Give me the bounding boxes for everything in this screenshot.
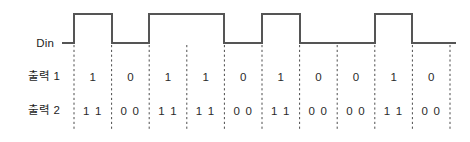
output1-bit-3: 1 [187,71,225,84]
output2-bit-4: 0 0 [224,105,262,118]
output1-bit-9: 0 [412,71,450,84]
timing-diagram-figure: Din 출력 1 출력 2 1011010010 1 10 01 11 10 0… [0,0,470,142]
output2-bit-0: 1 1 [74,105,112,118]
output1-row-label: 출력 1 [2,70,60,82]
output2-bit-5: 1 1 [262,105,300,118]
output2-bit-3: 1 1 [187,105,225,118]
din-waveform-path [62,14,456,43]
output2-bit-8: 1 1 [375,105,413,118]
output1-bit-7: 0 [337,71,375,84]
output1-bit-8: 1 [375,71,413,84]
output2-bit-1: 0 0 [112,105,150,118]
output1-bit-2: 1 [149,71,187,84]
output1-bit-5: 1 [262,71,300,84]
output1-bit-1: 0 [112,71,150,84]
output2-bit-7: 0 0 [337,105,375,118]
din-waveform [62,14,456,43]
output2-bit-9: 0 0 [412,105,450,118]
output2-bit-6: 0 0 [300,105,338,118]
output1-bit-6: 0 [300,71,338,84]
din-row-label: Din [2,37,54,49]
output2-bit-2: 1 1 [149,105,187,118]
output2-row-label: 출력 2 [2,104,60,116]
output1-bit-4: 0 [224,71,262,84]
output1-bit-0: 1 [74,71,112,84]
